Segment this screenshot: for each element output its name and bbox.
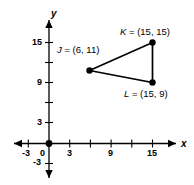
origin-point [46, 140, 53, 147]
y-axis [45, 20, 53, 178]
point-j-coords: = (6, 11) [62, 44, 100, 55]
x-tick-label-0: 0 [40, 149, 45, 158]
x-tick-label-15: 15 [147, 149, 157, 158]
x-axis [14, 140, 176, 148]
x-axis-left-arrowhead [14, 140, 22, 147]
x-axis-label: x [181, 139, 187, 149]
point-k-coords: = (15, 15) [126, 26, 170, 37]
x-tick-label-3: 3 [67, 149, 72, 158]
point-l-label: L = (15, 9) [124, 89, 168, 99]
x-axis-right-arrowhead [168, 140, 176, 147]
point-k-marker [149, 39, 155, 45]
y-tick-label-15: 15 [32, 38, 42, 47]
coordinate-plane-figure: 15 9 3 -3 -3 0 3 9 15 y x J = (6, 11) K … [0, 0, 194, 185]
y-axis-top-arrowhead [45, 20, 52, 28]
point-k-label: K = (15, 15) [120, 27, 170, 37]
x-tick-label-minus-3: -3 [22, 149, 30, 158]
x-tick-label-9: 9 [108, 149, 113, 158]
y-axis-label: y [51, 9, 57, 19]
y-tick-label-3: 3 [37, 118, 42, 127]
y-axis-bottom-arrowhead [45, 170, 52, 178]
point-l-marker [149, 79, 155, 85]
y-tick-label-9: 9 [37, 78, 42, 87]
point-j-marker [86, 67, 92, 73]
point-j-label: J = (6, 11) [57, 45, 99, 55]
y-tick-label-minus-3: -3 [33, 158, 41, 167]
point-l-coords: = (15, 9) [129, 88, 167, 99]
